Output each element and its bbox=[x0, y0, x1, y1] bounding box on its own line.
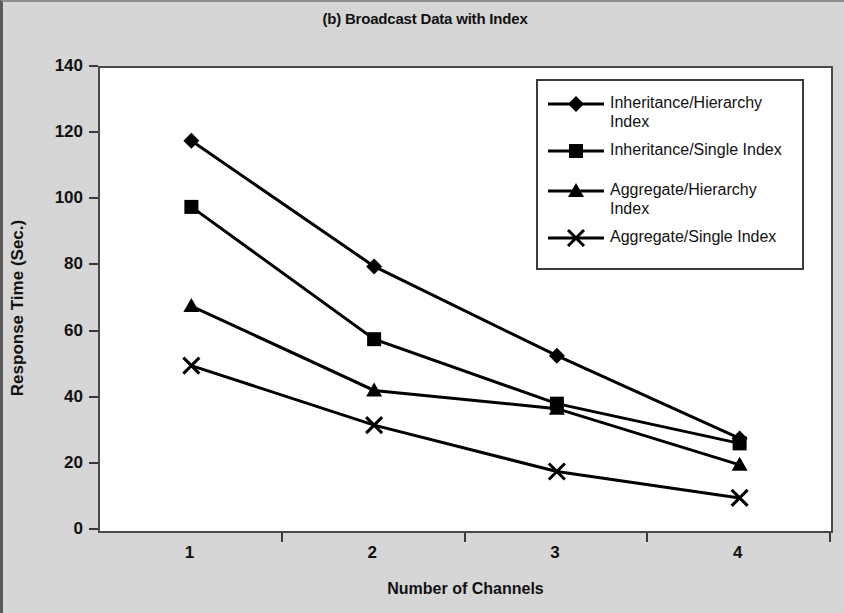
chart-title: (b) Broadcast Data with Index bbox=[3, 10, 844, 27]
data-point-square bbox=[569, 144, 583, 158]
legend-marker-square bbox=[546, 141, 608, 161]
y-axis-tick-label: 0 bbox=[23, 519, 83, 539]
legend-label: Aggregate/Single Index bbox=[610, 227, 776, 246]
x-axis-tick-mark bbox=[281, 533, 283, 542]
y-axis-tick-mark bbox=[89, 65, 98, 67]
y-axis-tick-mark bbox=[89, 462, 98, 464]
series-2 bbox=[183, 298, 747, 471]
legend-marker-cross bbox=[546, 228, 608, 248]
legend-marker-diamond bbox=[546, 94, 608, 114]
legend-item[interactable]: Aggregate/Single Index bbox=[546, 227, 776, 248]
legend-item[interactable]: Inheritance/Hierarchy Index bbox=[546, 93, 762, 131]
data-point-square bbox=[733, 436, 747, 450]
y-axis-tick-mark bbox=[89, 528, 98, 530]
x-axis-tick-label: 2 bbox=[342, 543, 402, 563]
data-point-diamond bbox=[549, 348, 565, 364]
series-line bbox=[191, 306, 739, 465]
y-axis-tick-label: 60 bbox=[23, 321, 83, 341]
data-point-triangle bbox=[183, 298, 199, 312]
y-axis-tick-mark bbox=[89, 396, 98, 398]
x-axis-tick-label: 3 bbox=[525, 543, 585, 563]
legend-item[interactable]: Aggregate/Hierarchy Index bbox=[546, 180, 757, 218]
legend-label: Aggregate/Hierarchy Index bbox=[610, 180, 757, 218]
x-axis-tick-label: 4 bbox=[708, 543, 768, 563]
y-axis-tick-label: 20 bbox=[23, 453, 83, 473]
data-point-cross bbox=[183, 358, 199, 374]
legend: Inheritance/Hierarchy IndexInheritance/S… bbox=[536, 79, 804, 270]
x-axis-tick-label: 1 bbox=[159, 543, 219, 563]
y-axis-tick-mark bbox=[89, 330, 98, 332]
x-axis-label: Number of Channels bbox=[98, 580, 833, 598]
series-line bbox=[191, 366, 739, 498]
data-point-square bbox=[367, 332, 381, 346]
x-axis-tick-mark bbox=[464, 533, 466, 542]
y-axis-tick-label: 140 bbox=[23, 56, 83, 76]
series-3 bbox=[183, 358, 747, 506]
y-axis-tick-label: 40 bbox=[23, 387, 83, 407]
x-axis-tick-mark bbox=[829, 533, 831, 542]
y-axis-tick-mark bbox=[89, 197, 98, 199]
y-axis-tick-label: 100 bbox=[23, 188, 83, 208]
y-axis-tick-label: 120 bbox=[23, 122, 83, 142]
figure-panel: (b) Broadcast Data with Index Response T… bbox=[0, 0, 844, 613]
legend-marker-triangle bbox=[546, 181, 608, 201]
legend-item[interactable]: Inheritance/Single Index bbox=[546, 140, 782, 161]
data-point-square bbox=[184, 200, 198, 214]
y-axis-tick-label: 80 bbox=[23, 254, 83, 274]
legend-label: Inheritance/Single Index bbox=[610, 140, 782, 159]
x-axis-tick-mark bbox=[646, 533, 648, 542]
y-axis-tick-mark bbox=[89, 263, 98, 265]
legend-label: Inheritance/Hierarchy Index bbox=[610, 93, 762, 131]
data-point-diamond bbox=[568, 96, 584, 112]
y-axis-tick-mark bbox=[89, 131, 98, 133]
